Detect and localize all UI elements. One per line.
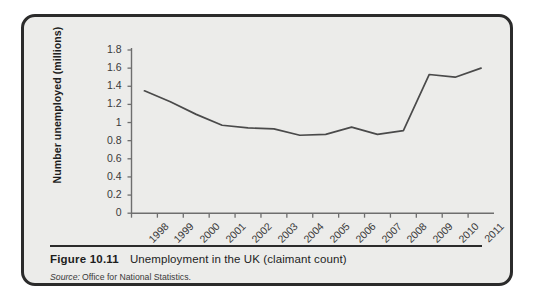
figure-number: Figure 10.11 (50, 253, 119, 265)
source-value: Office for National Statistics. (82, 272, 191, 282)
data-series-line (144, 68, 481, 135)
figure-caption: Figure 10.11Unemployment in the UK (clai… (50, 253, 490, 265)
figure-panel: Number unemployed (millions) 1.81.61.41.… (21, 14, 513, 286)
caption-divider (50, 245, 482, 247)
axis-lines (131, 48, 494, 214)
chart-area: Number unemployed (millions) 1.81.61.41.… (24, 17, 510, 242)
source-label: Source: (50, 272, 80, 282)
figure-source: Source:Office for National Statistics. (50, 272, 490, 282)
line-chart-plot (24, 17, 510, 242)
figure-title: Unemployment in the UK (claimant count) (130, 253, 347, 265)
